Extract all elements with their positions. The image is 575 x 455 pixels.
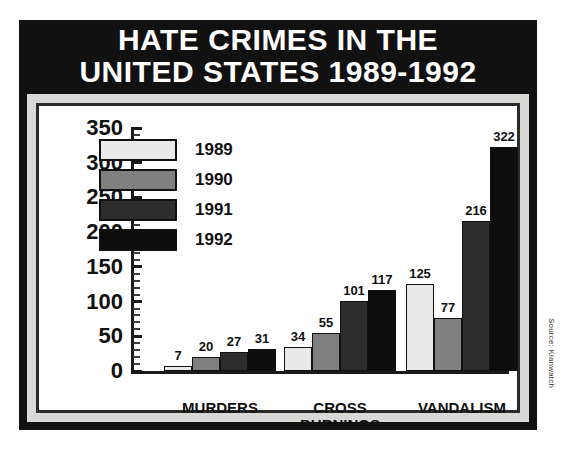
chart-frame-inner: 050100150200250300350 7202731MURDERS3455… xyxy=(36,103,520,413)
bar-value-label: 216 xyxy=(465,203,487,218)
legend-swatch-1990 xyxy=(99,169,177,191)
legend-swatch-1989 xyxy=(99,139,177,161)
bar-value-label: 7 xyxy=(174,348,181,363)
source-credit: Source: Klanwatch xyxy=(547,318,556,388)
bar-1991-vandalism[interactable] xyxy=(462,221,490,371)
bar-value-label: 34 xyxy=(291,329,305,344)
legend-label-1990: 1990 xyxy=(195,170,233,190)
bar-1992-cross-burnings[interactable] xyxy=(368,290,396,371)
legend-item-1991[interactable]: 1991 xyxy=(99,198,279,222)
bar-value-label: 20 xyxy=(199,339,213,354)
bar-value-label: 117 xyxy=(372,272,393,287)
legend-label-1989: 1989 xyxy=(195,140,233,160)
chart-legend: 1989199019911992 xyxy=(99,138,279,258)
x-axis-group-label: MURDERS xyxy=(182,399,258,416)
bar-1992-vandalism[interactable] xyxy=(490,147,518,371)
bar-value-label: 101 xyxy=(343,283,365,298)
chart-frame-outer: 050100150200250300350 7202731MURDERS3455… xyxy=(27,94,529,422)
poster-container: HATE CRIMES IN THE UNITED STATES 1989-19… xyxy=(19,20,537,430)
bar-1992-murders[interactable] xyxy=(248,349,276,371)
legend-item-1989[interactable]: 1989 xyxy=(99,138,279,162)
page-title-line-1: HATE CRIMES IN THE xyxy=(118,24,438,56)
page-title-line-2: UNITED STATES 1989-1992 xyxy=(79,56,476,88)
bar-1991-murders[interactable] xyxy=(220,352,248,371)
bar-group-vandalism: 12577216322VANDALISM xyxy=(406,127,518,371)
bar-value-label: 55 xyxy=(319,315,333,330)
x-axis-group-label: CROSS BURNINGS xyxy=(300,399,380,433)
legend-item-1990[interactable]: 1990 xyxy=(99,168,279,192)
bar-value-label: 322 xyxy=(493,129,515,144)
title-band: HATE CRIMES IN THE UNITED STATES 1989-19… xyxy=(19,20,537,92)
legend-label-1992: 1992 xyxy=(195,230,233,250)
bar-value-label: 31 xyxy=(255,331,269,346)
bar-value-label: 77 xyxy=(441,300,455,315)
bar-1989-murders[interactable] xyxy=(164,366,192,371)
bar-1989-vandalism[interactable] xyxy=(406,284,434,371)
bar-value-label: 125 xyxy=(409,266,431,281)
x-axis-group-label: VANDALISM xyxy=(418,399,506,416)
bar-1989-cross-burnings[interactable] xyxy=(284,347,312,371)
chart-plot-area: 050100150200250300350 7202731MURDERS3455… xyxy=(39,106,517,410)
bar-1990-murders[interactable] xyxy=(192,357,220,371)
bar-group-cross-burnings: 3455101117CROSS BURNINGS xyxy=(284,127,396,371)
legend-label-1991: 1991 xyxy=(195,200,233,220)
bar-1990-vandalism[interactable] xyxy=(434,318,462,371)
bar-1990-cross-burnings[interactable] xyxy=(312,333,340,371)
legend-item-1992[interactable]: 1992 xyxy=(99,228,279,252)
bar-1991-cross-burnings[interactable] xyxy=(340,301,368,371)
legend-swatch-1991 xyxy=(99,199,177,221)
bar-value-label: 27 xyxy=(227,334,241,349)
legend-swatch-1992 xyxy=(99,229,177,251)
